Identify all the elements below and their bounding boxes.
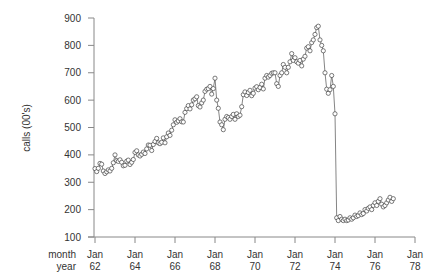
data-point-marker <box>303 54 307 58</box>
data-point-marker <box>100 162 104 166</box>
x-tick-label-month: Jan <box>87 249 103 260</box>
y-tick-label: 500 <box>64 122 81 133</box>
data-point-marker <box>163 141 167 145</box>
data-point-marker <box>316 24 320 28</box>
x-axis: Jan62Jan64Jan66Jan68Jan70Jan72Jan74Jan76… <box>87 237 423 272</box>
plot-area <box>93 24 396 223</box>
data-point-marker <box>150 148 154 152</box>
data-point-marker <box>293 56 297 60</box>
data-point-marker <box>238 113 242 117</box>
data-point-marker <box>155 136 159 140</box>
y-tick-label: 300 <box>64 177 81 188</box>
data-point-marker <box>198 105 202 109</box>
x-tick-label-month: Jan <box>287 249 303 260</box>
y-axis-label: calls (00's) <box>21 104 32 151</box>
data-point-marker <box>318 38 322 42</box>
data-point-marker <box>391 197 395 201</box>
data-point-marker <box>168 133 172 137</box>
data-point-marker <box>123 163 127 167</box>
data-point-marker <box>276 84 280 88</box>
y-tick-label: 900 <box>64 13 81 24</box>
data-point-marker <box>375 203 379 207</box>
data-point-marker <box>300 64 304 68</box>
data-point-marker <box>201 98 205 102</box>
y-tick-label: 400 <box>64 149 81 160</box>
x-tick-label-year: 72 <box>289 261 301 272</box>
y-axis: 100200300400500600700800900 <box>64 13 94 243</box>
data-point-marker <box>188 107 192 111</box>
chart-canvas: 100200300400500600700800900 Jan62Jan64Ja… <box>0 0 446 279</box>
data-point-marker <box>143 151 147 155</box>
x-tick-label-year: 78 <box>409 261 421 272</box>
data-point-marker <box>131 157 135 161</box>
data-point-marker <box>320 43 324 47</box>
data-point-marker <box>330 73 334 77</box>
data-point-marker <box>251 91 255 95</box>
x-tick-label-year: 70 <box>249 261 261 272</box>
y-tick-label: 200 <box>64 204 81 215</box>
x-tick-label-month: Jan <box>247 249 263 260</box>
y-tick-label: 100 <box>64 232 81 243</box>
data-point-marker <box>285 71 289 75</box>
data-point-marker <box>135 149 139 153</box>
data-point-marker <box>113 153 117 157</box>
x-tick-label-year: 76 <box>369 261 381 272</box>
x-tick-label-month: Jan <box>207 249 223 260</box>
data-point-marker <box>313 32 317 36</box>
data-point-marker <box>311 38 315 42</box>
data-point-marker <box>273 71 277 75</box>
data-point-marker <box>331 84 335 88</box>
data-point-marker <box>290 52 294 56</box>
data-point-marker <box>323 71 327 75</box>
x-tick-label-month: Jan <box>367 249 383 260</box>
data-point-marker <box>321 49 325 53</box>
data-point-marker <box>110 166 114 170</box>
data-point-marker <box>370 208 374 212</box>
x-tick-label-month: Jan <box>167 249 183 260</box>
y-tick-label: 600 <box>64 95 81 106</box>
data-point-marker <box>216 106 220 110</box>
x-tick-label-month: Jan <box>407 249 423 260</box>
data-point-marker <box>195 95 199 99</box>
x-tick-label-month: Jan <box>327 249 343 260</box>
x-axis-label-month: month <box>48 249 76 260</box>
data-point-marker <box>213 76 217 80</box>
y-tick-label: 700 <box>64 67 81 78</box>
data-point-marker <box>261 87 265 91</box>
data-point-marker <box>280 71 284 75</box>
data-point-marker <box>181 120 185 124</box>
data-point-marker <box>211 87 215 91</box>
data-point-marker <box>221 128 225 132</box>
x-tick-label-year: 62 <box>89 261 101 272</box>
data-point-marker <box>170 128 174 132</box>
x-tick-label-year: 64 <box>129 261 141 272</box>
data-point-marker <box>260 82 264 86</box>
y-tick-label: 800 <box>64 40 81 51</box>
x-tick-label-year: 68 <box>209 261 221 272</box>
data-point-marker <box>378 197 382 201</box>
x-tick-label-year: 66 <box>169 261 181 272</box>
data-point-marker <box>190 103 194 107</box>
x-axis-label-year: year <box>57 261 77 272</box>
x-tick-label-month: Jan <box>127 249 143 260</box>
data-point-marker <box>96 166 100 170</box>
series-line <box>95 26 393 220</box>
data-point-marker <box>210 92 214 96</box>
data-point-marker <box>215 98 219 102</box>
x-tick-label-year: 74 <box>329 261 341 272</box>
data-point-marker <box>220 123 224 127</box>
data-point-marker <box>328 88 332 92</box>
data-point-marker <box>306 45 310 49</box>
data-point-marker <box>308 49 312 53</box>
data-point-marker <box>333 112 337 116</box>
data-point-marker <box>240 105 244 109</box>
data-point-marker <box>286 65 290 69</box>
